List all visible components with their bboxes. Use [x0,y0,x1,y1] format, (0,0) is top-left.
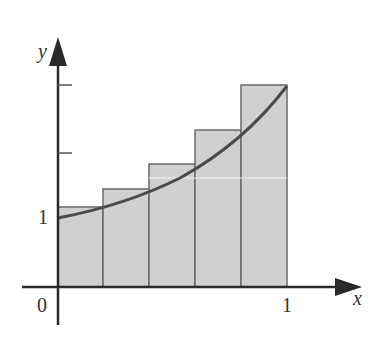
rectangle-1 [58,207,103,287]
rectangle-2 [103,189,149,287]
y-ticks [58,85,72,153]
x-tick-1-label: 1 [282,294,292,316]
y-axis-label: y [36,40,47,63]
y-axis-arrow-icon [49,37,67,66]
y-tick-1-label: 1 [38,206,48,228]
riemann-sum-diagram: y x 0 1 1 [0,0,389,341]
riemann-rectangles [58,85,287,287]
origin-label: 0 [37,294,47,316]
x-axis-label: x [352,287,362,309]
